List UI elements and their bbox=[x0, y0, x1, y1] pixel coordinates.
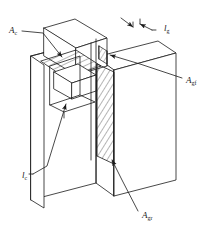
label-agr: Agr bbox=[141, 210, 153, 221]
label-ac: Ac bbox=[8, 25, 18, 36]
label-lc: lc bbox=[22, 170, 28, 181]
shear-plane-agr bbox=[97, 64, 114, 164]
label-agf: Agf bbox=[185, 75, 197, 86]
figure-svg: Ac Agf Agr lc lg bbox=[0, 0, 212, 230]
label-lg: lg bbox=[164, 23, 170, 34]
dimension-lg bbox=[121, 18, 156, 30]
isometric-connection-figure: Ac Agf Agr lc lg bbox=[0, 0, 212, 230]
